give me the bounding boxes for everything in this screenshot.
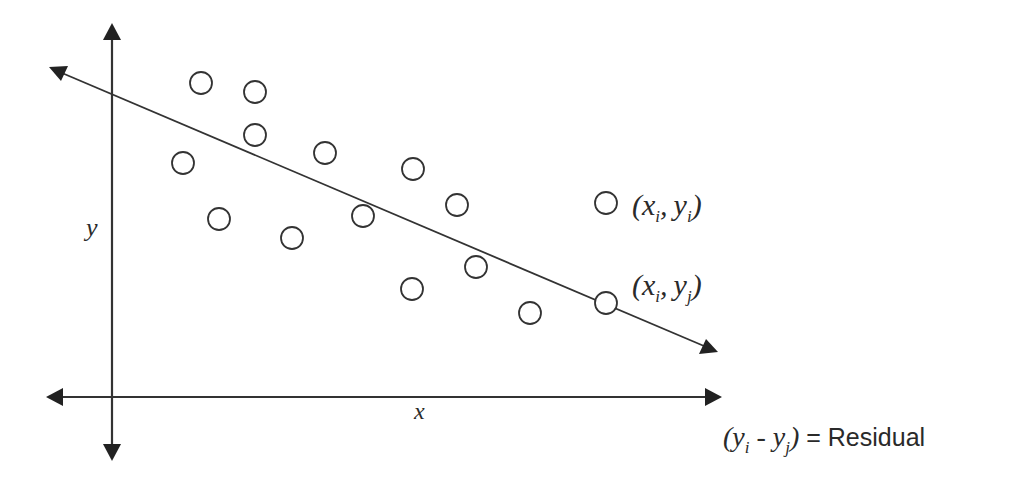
observed-point-legend-icon — [595, 192, 617, 214]
regression-right-arrow-icon — [699, 339, 718, 354]
data-point — [519, 302, 541, 324]
predicted-point-label: (xi,yj) — [632, 268, 702, 306]
y-axis-down-arrow-icon — [103, 444, 121, 461]
data-point — [401, 278, 423, 300]
data-point — [172, 152, 194, 174]
y-axis-up-arrow-icon — [103, 23, 121, 40]
data-point — [465, 256, 487, 278]
x-axis-right-arrow-icon — [705, 388, 722, 406]
data-point — [446, 194, 468, 216]
data-point — [281, 227, 303, 249]
y-axis — [103, 23, 121, 461]
data-point — [244, 124, 266, 146]
data-point — [352, 205, 374, 227]
x-axis-left-arrow-icon — [46, 388, 63, 406]
regression-line — [49, 66, 718, 354]
x-axis — [46, 388, 722, 406]
data-point — [190, 72, 212, 94]
x-axis-label: x — [413, 398, 425, 424]
observed-point-label: (xi,yi) — [632, 188, 702, 226]
regression-diagram: y x (xi,yi) (xi,yj) (yi - yj) = Residual — [0, 0, 1012, 485]
data-point — [595, 292, 617, 314]
data-point — [244, 81, 266, 103]
data-points — [172, 72, 617, 324]
data-point — [402, 158, 424, 180]
y-axis-label: y — [83, 213, 98, 242]
data-point — [208, 208, 230, 230]
data-point — [314, 142, 336, 164]
residual-formula: (yi - yj) = Residual — [723, 421, 925, 457]
